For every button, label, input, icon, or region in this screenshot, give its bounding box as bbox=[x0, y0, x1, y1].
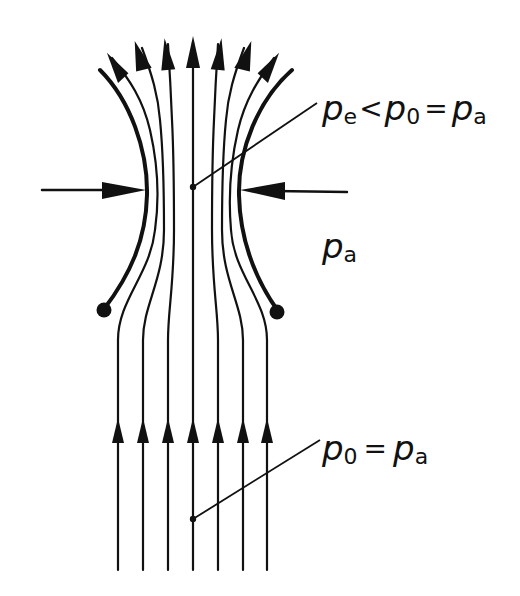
streamline-6 bbox=[222, 48, 244, 570]
pressure-arrow-right bbox=[240, 182, 347, 200]
arrow-up-icon bbox=[237, 418, 249, 443]
label-pressure-relation-top: pe<p0=pa bbox=[321, 88, 487, 129]
arrow-up-icon bbox=[137, 418, 149, 443]
leader-lines bbox=[190, 103, 320, 522]
label-pressure-relation-bottom: p0=pa bbox=[321, 428, 428, 469]
arrow-up-icon bbox=[261, 418, 273, 443]
arrow-right-icon bbox=[102, 182, 146, 199]
streamline-7 bbox=[230, 58, 274, 570]
streamlines bbox=[112, 42, 274, 570]
arrow-up-icon bbox=[234, 39, 257, 72]
streamline-2 bbox=[142, 48, 164, 570]
label-ambient-pressure: pa bbox=[321, 226, 357, 267]
inflow-arrowheads bbox=[112, 418, 273, 443]
leader-line-bottom bbox=[193, 440, 320, 519]
streamline-5 bbox=[212, 44, 218, 570]
arrow-up-icon bbox=[129, 39, 152, 72]
left-wall-end-dot bbox=[97, 303, 112, 318]
pressure-arrow-left bbox=[42, 182, 146, 199]
arrow-up-icon bbox=[112, 418, 124, 443]
streamline-1 bbox=[112, 58, 158, 570]
arrow-up-icon bbox=[211, 37, 228, 70]
arrow-up-icon bbox=[159, 37, 176, 70]
arrow-up-icon bbox=[162, 418, 174, 443]
arrow-up-icon bbox=[212, 418, 224, 443]
arrow-left-icon bbox=[240, 182, 285, 200]
streamline-3 bbox=[168, 44, 174, 570]
arrow-up-icon bbox=[186, 36, 200, 68]
leader-line-top bbox=[193, 103, 317, 187]
flow-diagram: pe<p0=pa pa p0=pa bbox=[0, 0, 520, 596]
leader-point-inflow bbox=[190, 516, 196, 522]
right-wall-end-dot bbox=[270, 305, 285, 320]
arrow-up-icon bbox=[187, 418, 199, 443]
leader-point-waist bbox=[190, 184, 196, 190]
